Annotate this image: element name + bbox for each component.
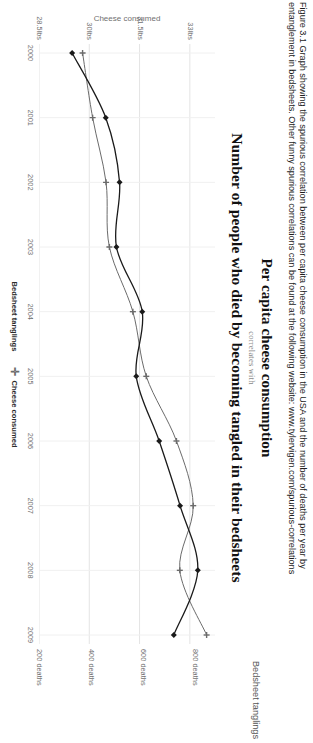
chart-title-top: Per capita cheese consumption [258, 0, 275, 716]
x-axis-tick-label: 2000 [26, 45, 35, 61]
chart-title-bottom: Number of people who died by becoming ta… [228, 0, 246, 716]
caption-line-1: Figure 3.1 Graph showing the spurious co… [298, 2, 309, 712]
x-axis-tick-label: 2003 [26, 239, 35, 255]
plus-glyph: ✛ [9, 367, 21, 376]
left-axis-tick-label: 30lbs [85, 22, 94, 40]
plot-area [39, 44, 215, 644]
right-axis-tick-label: 400 deaths [87, 649, 96, 686]
x-axis-tick-label: 2004 [26, 303, 35, 319]
series-line-plus-marker [83, 53, 207, 635]
figure-caption: Figure 3.1 Graph showing the spurious co… [285, 0, 309, 716]
x-axis-tick-label: 2009 [26, 627, 35, 643]
caption-line-2: entanglement in bedsheets. Other funny s… [285, 2, 298, 712]
x-axis-tick-label: 2007 [26, 497, 35, 513]
series-line-diamond-marker [72, 53, 198, 635]
data-point-diamond [177, 503, 183, 509]
data-point-diamond [139, 309, 145, 315]
x-axis-tick-label: 2008 [26, 562, 35, 578]
data-point-diamond [156, 438, 162, 444]
chart-legend: Bedsheet tanglings✛Cheese consumed [10, 0, 19, 716]
x-axis-tick-label: 2001 [26, 109, 35, 125]
left-axis: Cheese consumed 33lbs31.5lbs30lbs28.5lbs [39, 0, 215, 44]
right-axis-title: Bedsheet tanglings [251, 640, 261, 743]
right-axis-tick-label: 800 deaths [191, 649, 200, 686]
plus-marker: ✛ [10, 367, 19, 376]
x-axis-tick-label: 2005 [26, 368, 35, 384]
data-point-diamond [103, 115, 109, 121]
data-point-diamond [195, 567, 201, 573]
legend-item-label: Bedsheet tanglings [10, 281, 19, 351]
chart-figure: Per capita cheese consumption correlates… [2, 0, 277, 716]
plot-svg [39, 44, 215, 644]
x-axis: 2000200120022003200420052006200720082009 [17, 44, 37, 644]
left-axis-title: Cheese consumed [47, 14, 207, 23]
right-axis-tick-label: 600 deaths [139, 649, 148, 686]
legend-item[interactable]: ✛Cheese consumed [10, 367, 19, 447]
diamond-marker [10, 268, 19, 277]
data-point-diamond [171, 632, 177, 638]
right-axis: Bedsheet tanglings 800 deaths600 deaths4… [39, 644, 215, 716]
left-axis-tick-label: 28.5lbs [35, 16, 44, 40]
chart-subtitle: correlates with [247, 0, 257, 716]
legend-item-label: Cheese consumed [10, 380, 19, 447]
x-axis-tick-label: 2002 [26, 174, 35, 190]
chart-title-block: Per capita cheese consumption correlates… [228, 0, 275, 716]
data-point-diamond [117, 179, 123, 185]
data-point-diamond [69, 50, 75, 56]
data-point-diamond [113, 244, 119, 250]
data-point-diamond [133, 373, 139, 379]
x-axis-tick-label: 2006 [26, 433, 35, 449]
legend-item[interactable]: Bedsheet tanglings [10, 268, 19, 351]
left-axis-tick-label: 33lbs [185, 22, 194, 40]
left-axis-tick-label: 31.5lbs [135, 16, 144, 40]
right-axis-tick-label: 200 deaths [35, 649, 44, 686]
